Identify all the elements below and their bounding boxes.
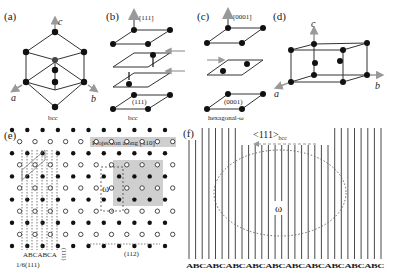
atom-open	[79, 139, 83, 143]
atom-open	[17, 139, 21, 143]
atom-filled	[71, 128, 75, 132]
axis-a-label: a	[11, 92, 16, 103]
atom-filled	[56, 197, 60, 201]
atom-filled	[163, 197, 167, 201]
atom-filled	[148, 174, 152, 178]
atom-filled	[71, 221, 75, 225]
atom-filled	[117, 197, 121, 201]
atom-open	[33, 209, 37, 213]
panel-f: <111>bcc (f) ω ABCABCABCABCABCABCABCABCA…	[182, 126, 384, 270]
atom-open	[94, 232, 98, 236]
direction-subscript: bcc	[279, 135, 288, 141]
atom-open	[63, 209, 67, 213]
atom-open	[17, 186, 21, 190]
atom-filled	[40, 244, 44, 248]
atom-filled	[148, 221, 152, 225]
atom-filled	[40, 128, 44, 132]
axis-a-label-d: a	[274, 88, 279, 99]
atom-open	[140, 163, 144, 167]
atom-open	[17, 232, 21, 236]
atom-filled	[56, 151, 60, 155]
atom-open	[94, 163, 98, 167]
atom-open	[155, 139, 159, 143]
atom-filled	[102, 174, 106, 178]
stacking-label-e: ABCABCA	[23, 251, 57, 259]
atom-filled	[10, 197, 14, 201]
hex-cell-edges	[291, 43, 367, 82]
atom-filled	[117, 221, 121, 225]
atom-filled	[148, 151, 152, 155]
caption-hexagonal-omega: hexagonal-ω	[208, 114, 244, 122]
atom-open	[79, 186, 83, 190]
atom-open	[171, 232, 175, 236]
hex-atoms	[288, 40, 370, 85]
atom-filled	[132, 151, 136, 155]
axis-c-label-d: c	[311, 18, 316, 29]
atom-open	[109, 163, 113, 167]
panel-e: Projection along [110] ω (e) ABCABCA 1/6…	[4, 128, 176, 269]
atom-open	[33, 186, 37, 190]
atom-filled	[148, 244, 152, 248]
atom-open	[125, 209, 129, 213]
omega-domain-ellipse	[214, 150, 346, 236]
axis-b-label-d: b	[375, 80, 380, 91]
plane-0001-label: (0001)	[224, 98, 243, 106]
atom-open	[125, 163, 129, 167]
atom-filled	[71, 174, 75, 178]
panel-d: (d) c b a	[273, 10, 380, 99]
atom-filled	[10, 151, 14, 155]
atom-open	[140, 186, 144, 190]
atom-filled	[71, 151, 75, 155]
atom-open	[17, 209, 21, 213]
atom-open	[79, 209, 83, 213]
plane-top	[113, 30, 170, 44]
atom-open	[155, 163, 159, 167]
atom-open	[171, 139, 175, 143]
panel-b: (b) [111] (111) bcc	[106, 10, 185, 122]
stacking-sequence-f: ABCABCABCABCABCABCABCABCABCABC	[186, 262, 384, 270]
atom-filled	[117, 244, 121, 248]
atom-filled	[117, 128, 121, 132]
atom-filled	[86, 151, 90, 155]
atom-open	[17, 163, 21, 167]
atom-open	[125, 139, 129, 143]
axis-a-arrow-d	[278, 83, 288, 87]
atom-open	[63, 232, 67, 236]
atom-open	[125, 186, 129, 190]
direction-112-label: (112)	[124, 250, 140, 258]
atom-filled	[71, 197, 75, 201]
atom-filled	[86, 128, 90, 132]
atom-open	[140, 232, 144, 236]
panel-a: (a) c a b bcc	[4, 10, 96, 122]
atom-open	[79, 163, 83, 167]
atom-open	[33, 232, 37, 236]
atom-filled	[40, 221, 44, 225]
atom-filled	[56, 128, 60, 132]
atom-filled	[56, 174, 60, 178]
atom-filled	[40, 174, 44, 178]
atom-open	[63, 186, 67, 190]
panel-a-label: (a)	[4, 10, 17, 23]
atom-filled	[148, 128, 152, 132]
atom-open	[94, 139, 98, 143]
atom-filled	[86, 244, 90, 248]
atom-open	[140, 139, 144, 143]
panel-c: (c) [0001] (0001) hexagonal-ω	[197, 10, 266, 122]
omega-label-e: ω	[102, 182, 109, 194]
atom-open	[155, 232, 159, 236]
atom-open	[171, 186, 175, 190]
atom-filled	[25, 128, 29, 132]
atom-open	[33, 139, 37, 143]
caption-bcc-a: bcc	[48, 114, 58, 122]
atom-filled	[71, 244, 75, 248]
bcc-atoms	[23, 29, 87, 110]
projection-label: Projection along [110]	[92, 139, 155, 147]
atom-open	[171, 163, 175, 167]
atom-filled	[102, 244, 106, 248]
atom-filled	[148, 197, 152, 201]
atom-filled	[132, 128, 136, 132]
direction-0001-label: [0001]	[233, 13, 252, 21]
atom-filled	[86, 174, 90, 178]
panel-e-label: (e)	[4, 129, 17, 142]
panel-d-label: (d)	[273, 10, 286, 23]
